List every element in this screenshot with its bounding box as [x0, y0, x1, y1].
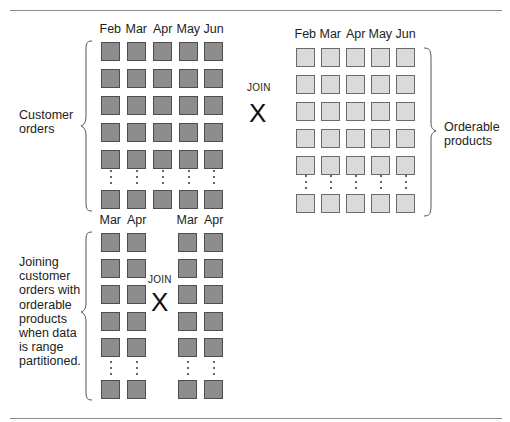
partition-cell: [179, 123, 198, 142]
partition-cell: [346, 48, 365, 67]
partition-cell: [153, 96, 172, 115]
partition-cell: [178, 338, 197, 357]
month-label-apr: Apr: [127, 213, 146, 227]
partition-cell: [321, 75, 340, 94]
partition-cell: [178, 285, 197, 304]
ellipsis-vertical-icon: [355, 175, 357, 193]
partition-cell: [179, 190, 198, 209]
partition-cell: [204, 312, 223, 331]
ellipsis-vertical-icon: [187, 361, 189, 379]
ellipsis-vertical-icon: [188, 170, 190, 188]
partition-cell: [178, 259, 197, 278]
ellipsis-vertical-icon: [380, 175, 382, 193]
month-label-mar: Mar: [320, 27, 342, 41]
partition-cell: [321, 48, 340, 67]
partition-join-x-icon: X: [151, 289, 168, 315]
partition-cell: [371, 156, 390, 175]
partition-cell: [153, 123, 172, 142]
partition-cell: [396, 129, 415, 148]
partition-cell: [296, 129, 315, 148]
partition-cell: [371, 48, 390, 67]
partition-cell: [153, 69, 172, 88]
partition-cell: [153, 42, 172, 61]
partition-brace: [80, 231, 94, 401]
label-line: products: [444, 134, 500, 148]
partition-cell: [127, 338, 146, 357]
partition-cell: [204, 123, 223, 142]
partition-cell: [101, 380, 120, 399]
label-line: orders: [19, 122, 73, 136]
month-label-jun: Jun: [204, 22, 224, 36]
partition-cell: [101, 312, 120, 331]
partition-cell: [178, 312, 197, 331]
orderable-products-brace: [423, 47, 437, 217]
partition-cell: [204, 380, 223, 399]
bottom-rule: [10, 418, 502, 419]
customer-orders-brace: [80, 40, 94, 212]
partition-cell: [101, 150, 120, 169]
partition-cell: [396, 102, 415, 121]
month-label-feb: Feb: [295, 27, 317, 41]
month-label-mar: Mar: [100, 213, 122, 227]
partition-cell: [371, 129, 390, 148]
partition-cell: [127, 233, 146, 252]
partition-cell: [101, 96, 120, 115]
partition-cell: [346, 75, 365, 94]
month-label-may: May: [177, 22, 201, 36]
ellipsis-vertical-icon: [136, 170, 138, 188]
label-line: orders with: [19, 283, 81, 297]
ellipsis-vertical-icon: [213, 361, 215, 379]
partition-cell: [396, 75, 415, 94]
month-label-apr: Apr: [204, 213, 223, 227]
partition-cell: [127, 285, 146, 304]
label-line: is range: [19, 340, 81, 354]
partition-cell: [321, 102, 340, 121]
partition-cell: [101, 190, 120, 209]
partition-cell: [179, 69, 198, 88]
partition-cell: [153, 190, 172, 209]
orderable-products-label: Orderable products: [444, 120, 500, 148]
partition-cell: [127, 190, 146, 209]
partition-cell: [179, 96, 198, 115]
partition-cell: [321, 156, 340, 175]
customer-orders-label: Customer orders: [19, 108, 73, 136]
partition-cell: [101, 42, 120, 61]
partition-cell: [346, 102, 365, 121]
label-line: partitioned.: [19, 354, 81, 368]
partition-cell: [127, 259, 146, 278]
partition-cell: [371, 194, 390, 213]
label-line: Orderable: [444, 120, 500, 134]
partition-cell: [346, 156, 365, 175]
join-x-icon: X: [249, 100, 266, 126]
top-rule: [10, 10, 502, 11]
partition-cell: [296, 75, 315, 94]
label-line: Customer: [19, 108, 73, 122]
partition-cell: [204, 233, 223, 252]
label-line: when data: [19, 326, 81, 340]
partition-cell: [296, 102, 315, 121]
partition-cell: [101, 69, 120, 88]
month-label-apr: Apr: [153, 22, 172, 36]
month-label-may: May: [369, 27, 393, 41]
partition-cell: [296, 156, 315, 175]
partition-cell: [296, 48, 315, 67]
ellipsis-vertical-icon: [136, 361, 138, 379]
partition-cell: [153, 150, 172, 169]
partition-cell: [204, 69, 223, 88]
partition-cell: [204, 150, 223, 169]
partition-cell: [127, 123, 146, 142]
ellipsis-vertical-icon: [110, 170, 112, 188]
partition-cell: [127, 69, 146, 88]
partition-cell: [179, 42, 198, 61]
partition-cell: [101, 259, 120, 278]
partition-cell: [204, 338, 223, 357]
partition-cell: [178, 233, 197, 252]
partition-cell: [321, 194, 340, 213]
partition-cell: [101, 123, 120, 142]
ellipsis-vertical-icon: [405, 175, 407, 193]
month-label-feb: Feb: [100, 22, 122, 36]
partition-cell: [396, 156, 415, 175]
partition-cell: [101, 285, 120, 304]
month-label-mar: Mar: [177, 213, 199, 227]
join-label: JOIN: [247, 82, 271, 93]
